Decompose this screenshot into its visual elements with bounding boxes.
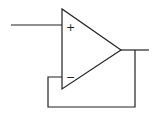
op-amp-follower-diagram: + −	[0, 0, 156, 132]
feedback-wire	[48, 50, 135, 107]
inverting-input-symbol: −	[66, 71, 75, 84]
non-inverting-input-symbol: +	[66, 21, 75, 34]
